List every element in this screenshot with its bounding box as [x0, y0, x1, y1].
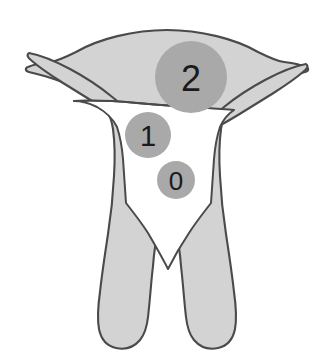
marker-0-label: 0 [169, 166, 183, 196]
marker-1-label: 1 [140, 120, 156, 152]
marker-2-label: 2 [181, 58, 201, 99]
marker-1[interactable]: 1 [125, 112, 171, 158]
marker-2[interactable]: 2 [155, 41, 227, 113]
marker-0[interactable]: 0 [157, 161, 195, 199]
uterus-diagram-figure: 2 1 0 [0, 0, 334, 363]
anatomy-illustration: 2 1 0 [0, 0, 334, 363]
